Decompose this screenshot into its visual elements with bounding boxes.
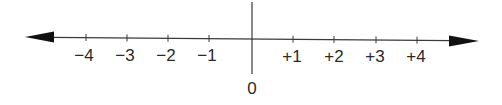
right-arrow-icon bbox=[449, 36, 479, 47]
tick-label-pos1: +1 bbox=[282, 47, 301, 66]
number-line-axis bbox=[50, 37, 452, 40]
tick-label-neg4: −4 bbox=[74, 46, 93, 65]
number-line-diagram: −4 −3 −2 −1 +1 +2 +3 +4 0 bbox=[0, 0, 502, 105]
tick-label-pos2: +2 bbox=[324, 47, 343, 66]
tick-label-neg2: −2 bbox=[156, 46, 175, 65]
tick-label-neg3: −3 bbox=[115, 46, 134, 65]
tick-label-neg1: −1 bbox=[197, 46, 216, 65]
left-arrow-icon bbox=[25, 32, 54, 43]
tick-label-pos3: +3 bbox=[365, 47, 384, 66]
tick-label-pos4: +4 bbox=[406, 47, 425, 66]
zero-label: 0 bbox=[247, 79, 256, 98]
